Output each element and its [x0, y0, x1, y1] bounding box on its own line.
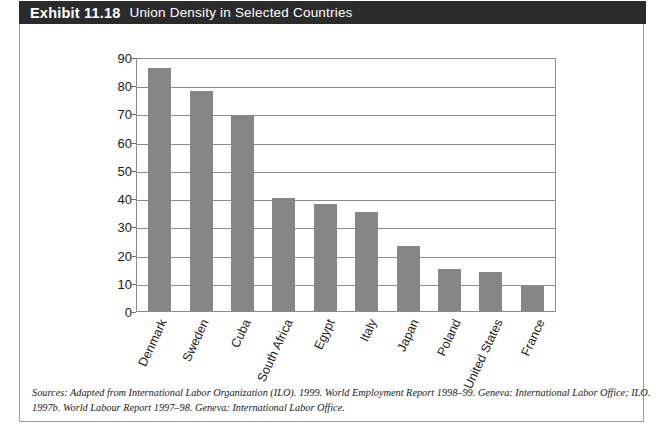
x-axis-label-slot: South Africa [272, 315, 295, 385]
x-axis-tick-label: South Africa [255, 317, 296, 384]
y-axis-tick [130, 171, 136, 172]
y-axis-tick [130, 114, 136, 115]
x-axis-label-slot: United States [482, 315, 505, 385]
y-axis-tick-label: 30 [98, 220, 132, 235]
source-line-1: Sources: Adapted from International Labo… [32, 386, 632, 401]
y-axis-tick-label: 70 [98, 107, 132, 122]
bar [355, 212, 378, 311]
x-axis-tick-label: Japan [395, 317, 422, 354]
x-axis-label-slot: France [524, 315, 547, 385]
gridline [137, 87, 555, 88]
x-axis-tick-label: Denmark [136, 317, 170, 369]
plot-area [136, 58, 556, 312]
exhibit-panel: Exhibit 11.18 Union Density in Selected … [19, 24, 644, 422]
x-axis-labels: DenmarkSwedenCubaSouth AfricaEgyptItalyJ… [136, 315, 556, 385]
x-axis-label-slot: Egypt [314, 315, 337, 385]
y-axis-tick [130, 227, 136, 228]
x-axis-label-slot: Cuba [230, 315, 253, 385]
y-axis-tick [130, 86, 136, 87]
y-axis-tick-label: 90 [98, 51, 132, 66]
x-axis-label-slot: Japan [398, 315, 421, 385]
source-line-2: 1997b. World Labour Report 1997–98. Gene… [32, 401, 632, 416]
y-axis-tick-label: 20 [98, 248, 132, 263]
y-axis-tick [130, 58, 136, 59]
x-axis-tick-label: Poland [435, 317, 464, 358]
bar [479, 272, 502, 312]
bar [521, 286, 544, 311]
y-axis-tick [130, 199, 136, 200]
bar [190, 91, 213, 311]
exhibit-header: Exhibit 11.18 Union Density in Selected … [19, 1, 646, 24]
x-axis-label-slot: Denmark [146, 315, 169, 385]
bar [272, 198, 295, 311]
bar-chart: 0102030405060708090 DenmarkSwedenCubaSou… [20, 24, 643, 384]
y-axis-tick [130, 312, 136, 313]
y-axis-tick [130, 143, 136, 144]
x-axis-tick-label: United States [461, 317, 505, 391]
x-axis-tick-label: Sweden [180, 317, 212, 364]
x-axis-label-slot: Italy [356, 315, 379, 385]
y-axis-tick-label: 10 [98, 276, 132, 291]
x-axis-label-slot: Poland [440, 315, 463, 385]
x-axis-tick-label: Egypt [311, 317, 337, 352]
y-axis-tick-label: 80 [98, 79, 132, 94]
exhibit-title: Union Density in Selected Countries [129, 5, 352, 20]
y-axis-tick [130, 284, 136, 285]
y-axis-tick-label: 40 [98, 192, 132, 207]
x-axis-tick-label: Cuba [228, 317, 253, 350]
y-axis-labels: 0102030405060708090 [98, 58, 132, 312]
x-axis-label-slot: Sweden [188, 315, 211, 385]
y-axis-tick-label: 60 [98, 135, 132, 150]
source-note: Sources: Adapted from International Labo… [32, 386, 632, 416]
y-axis-tick-label: 50 [98, 163, 132, 178]
bar-series [137, 59, 555, 311]
bar [314, 204, 337, 311]
bar [438, 269, 461, 311]
bar [397, 246, 420, 311]
y-axis-tick-label: 0 [98, 305, 132, 320]
exhibit-number: Exhibit 11.18 [30, 5, 120, 21]
y-axis-tick [130, 256, 136, 257]
x-axis-tick-label: France [519, 317, 548, 358]
bar [148, 68, 171, 311]
x-axis-tick-label: Italy [357, 317, 379, 344]
bar [231, 116, 254, 311]
